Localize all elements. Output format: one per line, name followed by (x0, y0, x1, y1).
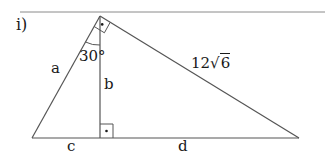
angle-label: 30° (79, 49, 106, 64)
right-angle-dot-foot (105, 130, 108, 133)
problem-label: i) (16, 17, 27, 33)
side-a-line (32, 16, 100, 138)
right-angle-dot-apex (101, 23, 104, 26)
radical-sign-icon: √ (210, 54, 220, 72)
hypotenuse-line (100, 16, 299, 138)
hypotenuse-label: 12√6 (191, 56, 230, 71)
side-c-label: c (67, 139, 75, 154)
hypotenuse-coefficient: 12 (191, 54, 210, 72)
sqrt-expression: √6 (210, 56, 230, 71)
problem-figure: i) 30° a b c d 12√6 (0, 0, 325, 166)
radicand: 6 (220, 53, 231, 72)
triangle-diagram (0, 0, 325, 166)
side-a-label: a (51, 61, 60, 76)
angle-arc (86, 42, 101, 45)
side-b-label: b (104, 77, 114, 92)
side-d-label: d (178, 139, 188, 154)
